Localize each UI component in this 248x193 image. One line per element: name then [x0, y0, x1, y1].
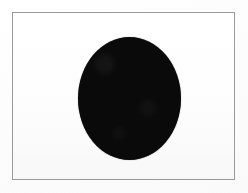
ellipse-edge-softener — [77, 36, 182, 161]
black-ellipse — [78, 37, 181, 160]
figure-page — [0, 0, 248, 193]
figure-caption — [0, 0, 1, 1]
ellipse-grain-overlay — [78, 37, 181, 160]
figure-border — [12, 12, 235, 180]
black-ellipse-label — [78, 37, 79, 38]
